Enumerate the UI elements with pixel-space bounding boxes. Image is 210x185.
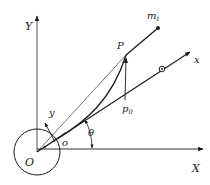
theta-label: θ: [88, 127, 94, 138]
y-axis-label: y: [48, 107, 55, 118]
rotating-beam-diagram: Y X x y O o θ P p0 mt: [0, 0, 210, 185]
point-p0-label: p0: [122, 103, 133, 116]
y-axis-line: [45, 123, 55, 142]
tip-mass-dot: [156, 26, 160, 30]
tip-mass-line: [126, 28, 158, 55]
mass-label: mt: [147, 10, 159, 23]
mass-sub: t: [156, 15, 159, 23]
point-P-label: P: [116, 40, 124, 51]
origin-O-label: O: [25, 156, 34, 169]
O-to-P-line: [37, 55, 126, 152]
Y-axis-label: Y: [25, 20, 34, 33]
x-axis-label: x: [194, 54, 200, 65]
mass-main: m: [147, 10, 156, 21]
x-axis-marker-dot: [161, 68, 163, 70]
origin-o-label: o: [62, 137, 68, 148]
p0-sub: 0: [128, 108, 132, 116]
X-axis-label: X: [191, 162, 201, 175]
